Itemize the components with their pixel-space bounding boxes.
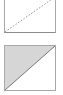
figure-root: [0, 0, 63, 95]
top-square-svg: [0, 0, 63, 38]
top-square-dashed-diagonal: [5, 0, 55, 32]
top-square-diagram: [0, 0, 63, 38]
bottom-square-diagram: [0, 40, 63, 95]
bottom-square-svg: [0, 40, 63, 95]
top-square-outline: [5, 0, 56, 33]
